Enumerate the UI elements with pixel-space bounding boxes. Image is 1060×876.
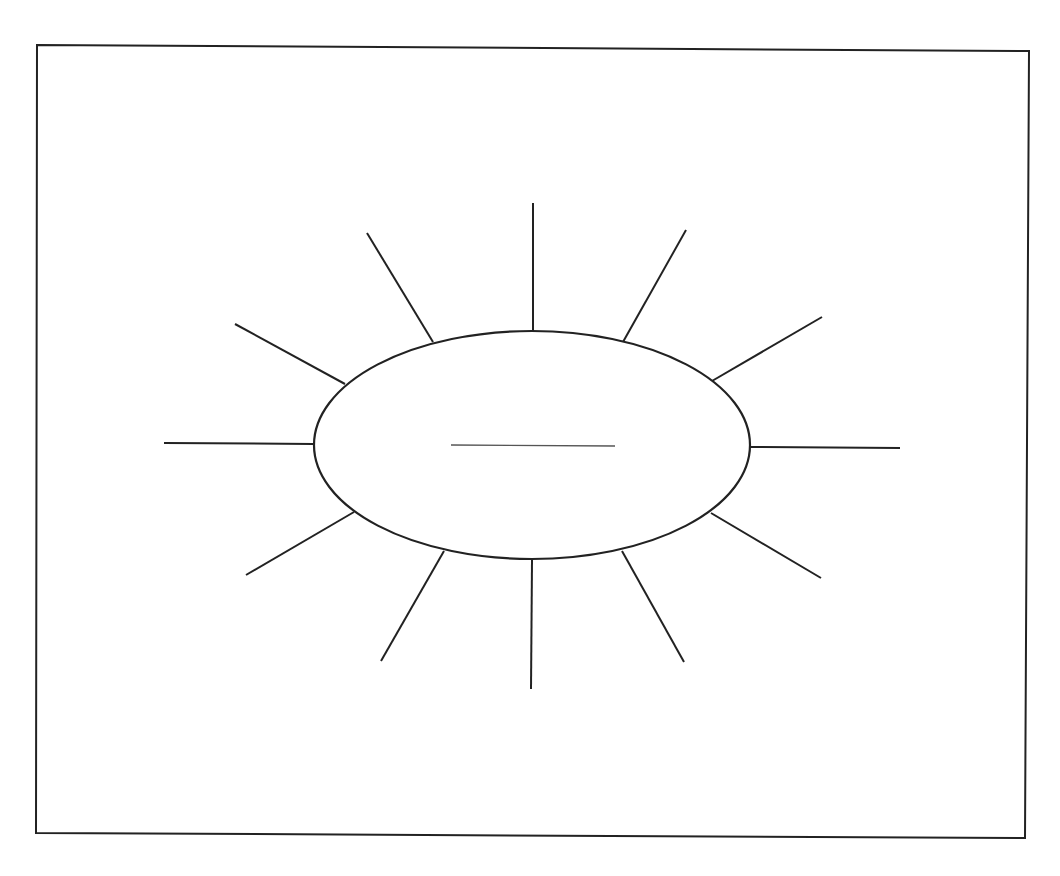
ray-left: [164, 443, 313, 444]
center-writing-line: [451, 445, 615, 446]
ray-bottom: [531, 560, 532, 689]
ray-right: [750, 447, 900, 448]
sun-organizer-diagram: [0, 0, 1060, 876]
